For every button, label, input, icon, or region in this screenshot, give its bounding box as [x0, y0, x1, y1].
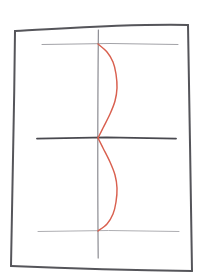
- sketch-canvas: [0, 0, 206, 279]
- sketch-figure: [0, 0, 206, 279]
- vertical-axis: [98, 30, 99, 258]
